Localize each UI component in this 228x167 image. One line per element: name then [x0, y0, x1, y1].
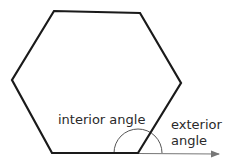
- hexagon-outline: [12, 11, 181, 153]
- interior-angle-label: interior angle: [58, 112, 145, 127]
- hexagon-angle-diagram: interior angle exterior angle: [0, 0, 228, 167]
- exterior-angle-label-line2: angle: [171, 133, 207, 148]
- angle-arc: [114, 129, 162, 153]
- extended-side-arrow: [138, 154, 219, 155]
- exterior-angle-label-line1: exterior: [171, 117, 222, 132]
